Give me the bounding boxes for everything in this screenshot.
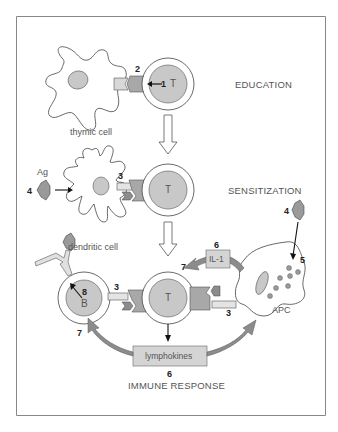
arrow-to-b — [88, 318, 133, 356]
flow-arrow-1 — [159, 115, 177, 154]
immune-diagram — [0, 0, 338, 432]
num-6-lymph: 6 — [167, 369, 172, 379]
label-lymphokines: lymphokines — [145, 351, 192, 361]
mhc-thymic — [114, 78, 128, 90]
num-4-right: 4 — [284, 206, 289, 216]
antigen-peptide-apc — [211, 286, 220, 296]
num-3-b: 3 — [114, 282, 119, 292]
dendritic-nucleus — [93, 177, 109, 195]
num-3-apc: 3 — [226, 308, 231, 318]
label-il1: IL-1 — [209, 254, 224, 264]
stage-sensitization: SENSITIZATION — [228, 185, 302, 196]
t-label-education: T — [170, 78, 176, 89]
antigen-peptide-b — [122, 302, 133, 310]
label-dendritic-cell: dendritic cell — [68, 242, 118, 252]
num-6-il1: 6 — [214, 240, 219, 250]
num-3-dendritic: 3 — [118, 171, 123, 181]
num-7-b: 7 — [77, 328, 82, 338]
antigen-right-icon — [292, 200, 304, 220]
num-7-il1: 7 — [181, 262, 186, 272]
mhc-b — [108, 293, 128, 300]
num-4-left: 4 — [27, 186, 32, 196]
label-apc: APC — [272, 305, 291, 315]
num-2: 2 — [135, 64, 140, 74]
stage-education: EDUCATION — [235, 79, 292, 90]
flow-arrow-2 — [159, 222, 177, 256]
stage-immune-response: IMMUNE RESPONSE — [128, 380, 225, 391]
antigen-left-icon — [37, 180, 50, 200]
arrow-to-apc — [207, 320, 256, 356]
arrow-lymphokines-head — [165, 335, 171, 342]
tcr-apc — [190, 287, 210, 310]
t-label-immune: T — [165, 292, 171, 303]
num-5: 5 — [300, 255, 305, 265]
num-8: 8 — [82, 287, 87, 297]
label-thymic-cell: thymic cell — [70, 127, 112, 137]
t-label-sensitization: T — [165, 184, 171, 195]
antibody-icon — [35, 250, 72, 276]
b-label: B — [81, 298, 88, 309]
num-1: 1 — [161, 79, 166, 89]
mhc-apc — [212, 301, 236, 308]
label-ag: Ag — [37, 167, 48, 177]
apc-cell — [235, 242, 305, 316]
